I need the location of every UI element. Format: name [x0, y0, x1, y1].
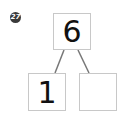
- whole-number: 6: [62, 14, 81, 49]
- answer-input[interactable]: [83, 77, 113, 107]
- part-value-left: 1: [37, 75, 56, 110]
- part-box-left: 1: [28, 73, 66, 111]
- part-box-right[interactable]: [79, 73, 117, 111]
- left-connector-line: [55, 50, 64, 73]
- whole-number-box: 6: [53, 13, 91, 50]
- right-connector-line: [78, 50, 89, 73]
